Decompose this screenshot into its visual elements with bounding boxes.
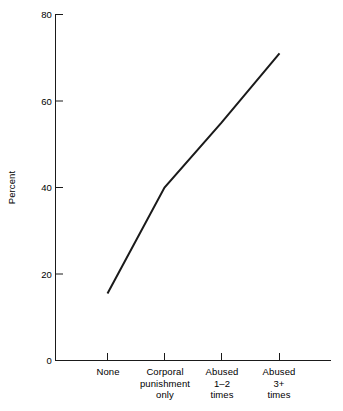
y-tick-label-60: 60: [26, 96, 52, 107]
y-tick-label-40: 40: [26, 182, 52, 193]
chart-plot-area: [0, 0, 343, 411]
y-tick-label-20: 20: [26, 269, 52, 280]
y-tick-label-0: 0: [26, 355, 52, 366]
x-tick-label-abused-3-plus-times: Abused 3+ times: [236, 366, 322, 401]
y-tick-label-80: 80: [26, 9, 52, 20]
line-chart: Percent 80 60 40 20 0 None Corporal puni…: [0, 0, 343, 411]
x-tick-label-abused3-line-2: 3+: [236, 378, 322, 390]
x-tick-label-abused3-line-1: Abused: [236, 366, 322, 378]
plot-background: [0, 0, 343, 411]
x-tick-label-abused3-line-3: times: [236, 389, 322, 401]
y-axis-title: Percent: [6, 158, 17, 218]
